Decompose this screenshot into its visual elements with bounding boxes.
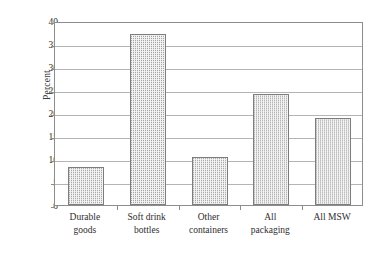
x-category-label: Durablegoods: [54, 211, 116, 236]
y-tick-mark: [51, 138, 55, 139]
gridline: [55, 69, 362, 70]
x-category-label-line: containers: [178, 224, 240, 237]
gridline: [55, 92, 362, 93]
y-tick-mark: [51, 23, 55, 24]
y-tick-mark: [51, 161, 55, 162]
bar: [130, 34, 166, 205]
x-tick-mark: [179, 206, 180, 210]
x-category-label: Soft drinkbottles: [116, 211, 178, 236]
y-tick-label: 20: [18, 109, 58, 119]
x-category-label: All MSW: [301, 211, 363, 224]
y-tick-mark: [51, 69, 55, 70]
x-category-label-line: Durable: [54, 211, 116, 224]
y-tick-label: 10: [18, 155, 58, 165]
x-tick-mark: [117, 206, 118, 210]
y-tick-label: 5: [18, 178, 58, 188]
y-tick-mark: [51, 92, 55, 93]
y-tick-label: 0: [18, 201, 58, 211]
x-category-label: Allpackaging: [239, 211, 301, 236]
plot-area: [54, 22, 363, 206]
y-tick-label: 35: [18, 40, 58, 50]
bar: [253, 94, 289, 205]
bar-chart: Percent 4035302520151050 DurablegoodsSof…: [0, 0, 378, 262]
y-tick-label: 40: [18, 17, 58, 27]
x-tick-mark: [302, 206, 303, 210]
y-tick-mark: [51, 207, 55, 208]
x-category-label: Othercontainers: [178, 211, 240, 236]
gridline: [55, 115, 362, 116]
x-tick-mark: [240, 206, 241, 210]
x-category-label-line: goods: [54, 224, 116, 237]
gridline: [55, 46, 362, 47]
x-category-label-line: All: [239, 211, 301, 224]
y-tick-mark: [51, 115, 55, 116]
bar: [192, 157, 228, 205]
bar: [68, 167, 104, 205]
y-tick-label: 15: [18, 132, 58, 142]
y-tick-label: 25: [18, 86, 58, 96]
x-category-label-line: bottles: [116, 224, 178, 237]
x-category-label-line: All MSW: [301, 211, 363, 224]
x-category-label-line: packaging: [239, 224, 301, 237]
y-tick-label: 30: [18, 63, 58, 73]
x-category-label-line: Soft drink: [116, 211, 178, 224]
x-category-label-line: Other: [178, 211, 240, 224]
y-tick-mark: [51, 184, 55, 185]
bar: [315, 118, 351, 205]
y-tick-mark: [51, 46, 55, 47]
